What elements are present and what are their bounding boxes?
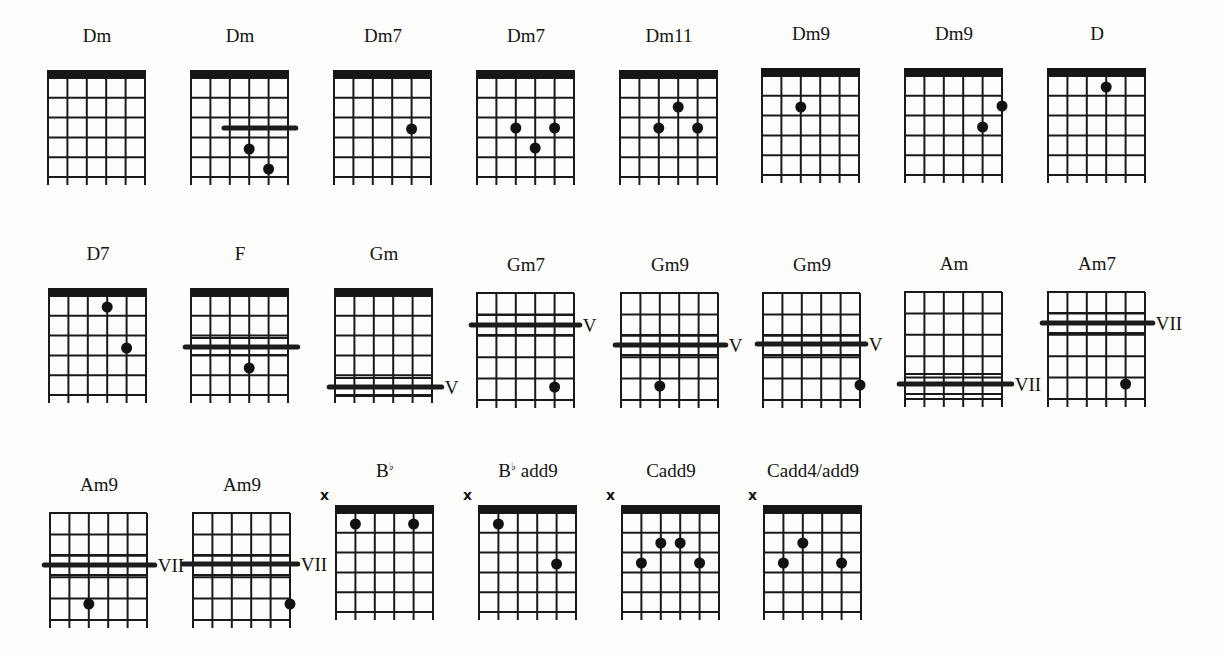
- chord-root: Gm7: [507, 254, 545, 275]
- fretboard-grid: [191, 288, 308, 413]
- chord-diagram-dm9-1: Dm9: [746, 22, 896, 202]
- chord-diagram-gm9-2: Gm9V: [747, 247, 897, 427]
- finger-dot: [408, 519, 419, 530]
- chord-diagram-am9-1: Am9VII: [34, 467, 184, 647]
- chord-diagram-am7: Am7VII: [1032, 246, 1182, 426]
- chord-root: Dm7: [507, 25, 545, 46]
- chord-name: Am7: [1032, 254, 1162, 274]
- muted-string-icon: x: [463, 488, 472, 502]
- fretboard-grid: [334, 70, 451, 195]
- chord-root: Am9: [80, 474, 118, 495]
- finger-dot: [694, 558, 705, 569]
- chord-root: F: [235, 243, 246, 264]
- chord-name: F: [175, 244, 305, 264]
- chord-name: Gm7: [461, 255, 591, 275]
- chord-name: Am: [889, 254, 1019, 274]
- chord-diagram-f: F: [175, 242, 325, 422]
- chord-name: Gm: [319, 244, 449, 264]
- chord-diagram-dm-2: Dm: [175, 24, 325, 204]
- chord-diagram-dm9-2: Dm9: [889, 22, 1039, 202]
- chord-name: Dm7: [461, 26, 591, 46]
- fret-position-label: V: [445, 378, 459, 398]
- chord-name: Gm9: [605, 255, 735, 275]
- chord-chart-sheet: DmDmDm7Dm7Dm11Dm9Dm9DD7FGmVGm7VGm9VGm9VA…: [0, 0, 1223, 658]
- finger-dot: [636, 558, 647, 569]
- chord-root: Dm11: [646, 25, 693, 46]
- chord-name: Am9: [34, 475, 164, 495]
- fretboard-grid: [336, 505, 453, 630]
- chord-name: B♭: [320, 461, 450, 481]
- fretboard-grid: [905, 68, 1022, 193]
- finger-dot: [673, 102, 684, 113]
- chord-diagram-am: AmVII: [889, 246, 1039, 426]
- chord-diagram-gm7: Gm7V: [461, 247, 611, 427]
- finger-dot: [549, 123, 560, 134]
- finger-dot: [1120, 379, 1131, 390]
- chord-root: Am7: [1078, 253, 1116, 274]
- finger-dot: [997, 101, 1008, 112]
- fretboard-grid: [50, 513, 167, 638]
- chord-name: B♭ add9: [463, 461, 593, 481]
- fretboard-grid: [1048, 68, 1165, 193]
- finger-dot: [655, 538, 666, 549]
- chord-name: Dm: [175, 26, 305, 46]
- finger-dot: [493, 519, 504, 530]
- chord-diagram-dm-1: Dm: [32, 24, 182, 204]
- finger-dot: [653, 123, 664, 134]
- chord-name: Dm: [32, 26, 162, 46]
- fretboard-grid: [905, 292, 1022, 417]
- chord-diagram-cadd9: Cadd9x: [606, 459, 756, 639]
- fretboard-grid: [762, 68, 879, 193]
- finger-dot: [551, 559, 562, 570]
- chord-name: Dm9: [889, 24, 1019, 44]
- fretboard-grid: [193, 513, 310, 638]
- finger-dot: [692, 123, 703, 134]
- chord-name: Dm9: [746, 24, 876, 44]
- muted-string-icon: x: [606, 488, 615, 502]
- fret-position-label: V: [729, 336, 743, 356]
- chord-root: D: [1090, 23, 1104, 44]
- chord-name: Cadd9: [606, 461, 736, 481]
- chord-name: Gm9: [747, 255, 877, 275]
- finger-dot: [263, 164, 274, 175]
- finger-dot: [406, 124, 417, 135]
- fret-position-label: VII: [1156, 314, 1182, 334]
- chord-root: B: [376, 460, 389, 481]
- fretboard-grid: [477, 70, 594, 195]
- muted-string-icon: x: [748, 488, 757, 502]
- fretboard-grid: [49, 288, 166, 413]
- chord-root: Dm7: [364, 25, 402, 46]
- chord-diagram-cadd4-add9: Cadd4/add9x: [748, 459, 898, 639]
- fretboard-grid: [477, 293, 594, 418]
- fretboard-grid: [191, 70, 308, 195]
- chord-diagram-am9-2: Am9VII: [177, 467, 327, 647]
- chord-diagram-dm11: Dm11: [604, 24, 754, 204]
- finger-dot: [102, 302, 113, 313]
- finger-dot: [83, 599, 94, 610]
- finger-dot: [121, 343, 132, 354]
- fret-position-label: V: [869, 335, 883, 355]
- chord-root: Dm: [226, 25, 255, 46]
- chord-root: Gm: [370, 243, 399, 264]
- fretboard-grid: [335, 288, 452, 413]
- chord-name: D7: [33, 244, 163, 264]
- finger-dot: [795, 102, 806, 113]
- chord-diagram-d7: D7: [33, 242, 183, 422]
- fretboard-grid: [620, 70, 737, 195]
- finger-dot: [285, 599, 296, 610]
- chord-diagram-dm7-1: Dm7: [318, 24, 468, 204]
- flat-accidental: ♭: [389, 460, 394, 472]
- fretboard-grid: [621, 293, 738, 418]
- chord-name: D: [1032, 24, 1162, 44]
- chord-root: Gm9: [793, 254, 831, 275]
- chord-name: Cadd4/add9: [748, 461, 878, 481]
- finger-dot: [549, 382, 560, 393]
- chord-root: Cadd4/add9: [767, 460, 859, 481]
- chord-suffix: add9: [516, 460, 558, 481]
- fretboard-grid: [764, 505, 881, 630]
- chord-diagram-bb: B♭x: [320, 459, 470, 639]
- finger-dot: [855, 380, 866, 391]
- chord-name: Dm7: [318, 26, 448, 46]
- finger-dot: [977, 122, 988, 133]
- fretboard-grid: [48, 70, 165, 195]
